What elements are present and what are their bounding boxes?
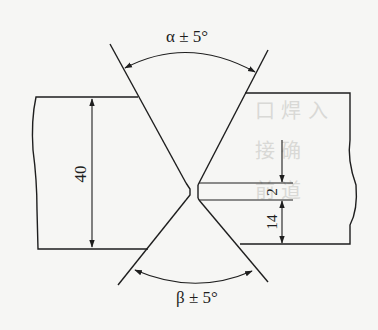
bottom-angle-label: β ± 5°	[176, 288, 218, 307]
svg-text:接 确: 接 确	[255, 139, 301, 163]
root-face-dim-label: 2	[264, 188, 280, 196]
thickness-dimension-label: 40	[71, 166, 90, 183]
lower-depth-dimension-label: 14	[264, 214, 280, 230]
top-angle-arc	[125, 52, 255, 72]
upper-bevel-left-line	[110, 44, 186, 183]
left-plate-outline	[32, 97, 148, 249]
weld-groove-diagram: 口 焊 入 接 确 前 道 α ± 5° β ± 5° 40 2 14	[0, 0, 378, 330]
root-face-right-top	[198, 183, 199, 185]
root-face-right-bot	[198, 198, 199, 200]
svg-text:口 焊 入: 口 焊 入	[255, 99, 328, 123]
lower-bevel-right-line	[199, 200, 268, 282]
root-face-left	[186, 183, 190, 200]
lower-bevel-left-line	[118, 200, 186, 285]
bottom-angle-arc	[135, 270, 252, 283]
top-angle-label: α ± 5°	[166, 27, 208, 46]
background-bleed-text: 口 焊 入 接 确 前 道	[255, 99, 328, 203]
